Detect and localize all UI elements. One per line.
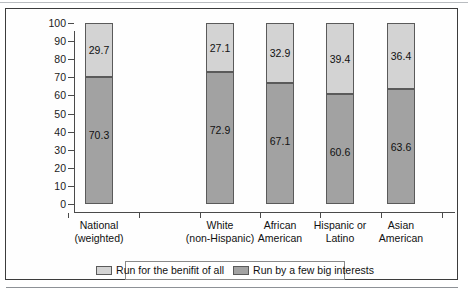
bar-value-benefit-of-all: 29.7 — [86, 45, 112, 56]
y-axis-tick-label: 10 — [26, 181, 66, 192]
bar-segment-big-interests: 70.3 — [85, 77, 113, 204]
category-label-line: (weighted) — [51, 232, 147, 245]
bar-2: 72.927.1 — [206, 23, 234, 204]
y-axis-tick-label: 80 — [26, 54, 66, 65]
bar-value-big-interests: 63.6 — [388, 142, 414, 153]
chart-legend: Run for the benifit of all Run by a few … — [125, 261, 345, 280]
bar-segment-benefit-of-all: 27.1 — [206, 23, 234, 72]
bar-segment-big-interests: 63.6 — [387, 89, 415, 204]
y-axis-tick-label: 100 — [26, 18, 66, 29]
category-label-1: National(weighted) — [51, 219, 147, 244]
legend-label-big-interests: Run by a few big interests — [253, 265, 374, 276]
legend-swatch-light-icon — [96, 266, 112, 275]
bar-value-big-interests: 70.3 — [86, 130, 112, 141]
page-top-rule — [0, 2, 468, 3]
bar-value-benefit-of-all: 36.4 — [388, 51, 414, 62]
chart-figure-frame: 1009080706050403020100 70.329.772.927.16… — [5, 8, 458, 280]
legend-item-benefit-of-all: Run for the benifit of all — [96, 265, 224, 276]
bar-segment-benefit-of-all: 39.4 — [326, 23, 354, 94]
y-axis-tick-label: 60 — [26, 90, 66, 101]
bar-segment-benefit-of-all: 29.7 — [85, 23, 113, 77]
bar-4: 60.639.4 — [326, 23, 354, 204]
x-axis-tick-mark — [139, 213, 140, 218]
page-bottom-rule — [6, 287, 458, 288]
legend-swatch-dark-icon — [233, 266, 249, 275]
y-axis-tick-label: 90 — [26, 36, 66, 47]
y-axis-tick-label: 0 — [26, 199, 66, 210]
y-axis-tick-label: 50 — [26, 109, 66, 120]
bar-value-benefit-of-all: 39.4 — [327, 54, 353, 65]
bar-segment-benefit-of-all: 32.9 — [266, 23, 294, 83]
y-axis-tick-label: 20 — [26, 163, 66, 174]
bar-value-benefit-of-all: 27.1 — [207, 43, 233, 54]
y-axis-tick-mark — [68, 168, 74, 169]
bar-value-big-interests: 67.1 — [267, 136, 293, 147]
y-axis-tick-mark — [68, 204, 74, 205]
y-axis-tick-mark — [68, 114, 74, 115]
y-axis-tick-label: 30 — [26, 145, 66, 156]
y-axis-tick-mark — [68, 23, 74, 24]
legend-item-big-interests: Run by a few big interests — [233, 265, 374, 276]
category-label-5: AsianAmerican — [353, 219, 449, 244]
bar-segment-big-interests: 72.9 — [206, 72, 234, 204]
y-axis-tick-mark — [68, 95, 74, 96]
y-axis-tick-mark — [68, 41, 74, 42]
bar-value-benefit-of-all: 32.9 — [267, 48, 293, 59]
bar-value-big-interests: 72.9 — [207, 125, 233, 136]
x-axis-tick-mark — [260, 213, 261, 218]
x-axis-tick-mark — [320, 213, 321, 218]
category-label-line: National — [51, 219, 147, 232]
x-axis-line — [74, 212, 455, 213]
bar-value-big-interests: 60.6 — [327, 147, 353, 158]
x-axis-tick-mark — [200, 213, 201, 218]
y-axis-tick-mark — [68, 59, 74, 60]
bar-segment-big-interests: 60.6 — [326, 94, 354, 204]
x-axis-tick-mark — [68, 213, 69, 218]
category-label-line: Asian — [353, 219, 449, 232]
legend-label-benefit-of-all: Run for the benifit of all — [116, 265, 224, 276]
y-axis-tick-mark — [68, 132, 74, 133]
bar-5: 63.636.4 — [387, 23, 415, 204]
y-axis-line — [74, 31, 75, 213]
y-axis-tick-label: 40 — [26, 127, 66, 138]
x-axis-tick-mark — [381, 213, 382, 218]
y-axis-tick-label: 70 — [26, 72, 66, 83]
bar-segment-big-interests: 67.1 — [266, 83, 294, 204]
bar-1: 70.329.7 — [85, 23, 113, 204]
category-label-line: American — [353, 232, 449, 245]
y-axis-tick-mark — [68, 186, 74, 187]
y-axis-tick-mark — [68, 150, 74, 151]
y-axis-labels: 1009080706050403020100 — [22, 9, 66, 292]
bar-3: 67.132.9 — [266, 23, 294, 204]
bar-segment-benefit-of-all: 36.4 — [387, 23, 415, 89]
y-axis-tick-mark — [68, 77, 74, 78]
x-axis-tick-mark — [442, 213, 443, 218]
